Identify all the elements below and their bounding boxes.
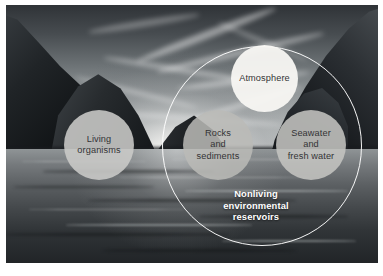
label-line: Atmosphere <box>239 73 290 84</box>
nonliving-reservoirs-caption: Nonliving environmental reservoirs <box>200 188 312 223</box>
node-rocks-and-sediments-label: Rocks and sediments <box>197 128 240 162</box>
label-line: and <box>288 139 335 150</box>
node-atmosphere[interactable]: Atmosphere <box>231 45 298 112</box>
node-living-organisms-label: Living organisms <box>77 134 120 156</box>
label-line: Seawater <box>288 128 335 139</box>
label-line: Living <box>77 134 120 145</box>
node-seawater-and-fresh-water-label: Seawater and fresh water <box>288 128 335 162</box>
node-seawater-and-fresh-water[interactable]: Seawater and fresh water <box>276 110 346 180</box>
label-line: sediments <box>197 151 240 162</box>
figure-container: Living organisms Atmosphere Rocks and se… <box>0 0 383 276</box>
caption-line: environmental <box>200 200 312 212</box>
label-line: Rocks <box>197 128 240 139</box>
caption-line: reservoirs <box>200 211 312 223</box>
diagram-overlay: Living organisms Atmosphere Rocks and se… <box>0 0 383 276</box>
node-rocks-and-sediments[interactable]: Rocks and sediments <box>183 110 253 180</box>
label-line: organisms <box>77 145 120 156</box>
caption-line: Nonliving <box>200 188 312 200</box>
label-line: fresh water <box>288 151 335 162</box>
node-atmosphere-label: Atmosphere <box>239 73 290 84</box>
node-living-organisms[interactable]: Living organisms <box>64 110 134 180</box>
label-line: and <box>197 139 240 150</box>
